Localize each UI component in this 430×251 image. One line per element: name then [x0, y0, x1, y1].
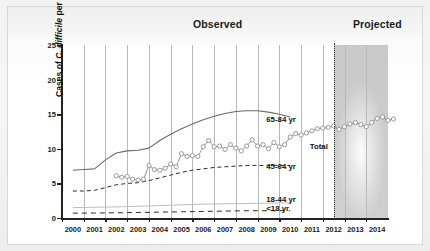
x-tick-2010: [279, 218, 280, 222]
x-tick-2009: [258, 218, 259, 222]
plot-area: 0510152025 20002001200220032004200520062…: [62, 45, 388, 218]
x-tick-2006: [192, 218, 193, 222]
series--18-yr: [73, 211, 290, 213]
y-tick-15: [57, 114, 62, 115]
y-tick-label-20: 20: [16, 76, 56, 85]
projection-divider-line: [334, 43, 335, 219]
y-tick-10: [57, 149, 62, 150]
observed-band-label: Observed: [193, 18, 242, 30]
x-tick-2005: [171, 218, 172, 222]
x-tick-2014: [366, 218, 367, 222]
x-tick-2008: [236, 218, 237, 222]
y-axis-title: Cases of C. difficile per 1000 Discharge…: [54, 0, 64, 97]
series-total: [114, 115, 395, 182]
label-total: Total: [310, 142, 328, 151]
label-65-84-yr: 65-84 yr: [266, 115, 295, 124]
x-axis-line: [61, 218, 389, 220]
y-tick-label-25: 25: [16, 41, 56, 50]
header-band: Observed Projected: [8, 7, 422, 37]
series-18-44-yr: [73, 203, 290, 208]
x-tick-2001: [84, 218, 85, 222]
x-tick-2004: [149, 218, 150, 222]
x-tick-2007: [214, 218, 215, 222]
series-45-64-yr: [73, 165, 290, 191]
label-18-44-yr: 18-44 yr: [266, 195, 295, 204]
x-tick-2013: [345, 218, 346, 222]
y-tick-label-0: 0: [16, 214, 56, 223]
label-45-64-yr: 45-64 yr: [266, 162, 295, 171]
x-tick-2002: [105, 218, 106, 222]
y-tick-5: [57, 183, 62, 184]
y-tick-label-5: 5: [16, 179, 56, 188]
x-tick-label-2014: 2014: [357, 225, 397, 234]
x-tick-2012: [323, 218, 324, 222]
x-tick-2000: [62, 218, 63, 222]
projected-band-label: Projected: [353, 18, 402, 30]
series-65-84-yr: [73, 111, 290, 171]
series-layer: [62, 45, 388, 218]
y-tick-label-10: 10: [16, 145, 56, 154]
y-tick-label-15: 15: [16, 110, 56, 119]
x-tick-2003: [127, 218, 128, 222]
label--18-yr: <18 yr: [266, 204, 289, 213]
figure-container: Observed Projected 0510152025 2000200120…: [0, 0, 430, 251]
x-tick-2011: [301, 218, 302, 222]
